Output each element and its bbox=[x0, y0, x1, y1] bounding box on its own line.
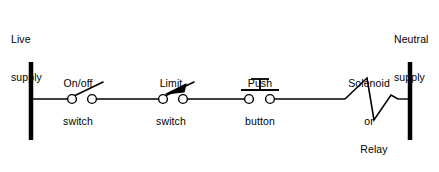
solenoid-label-line1: Solenoid bbox=[338, 77, 400, 90]
limit-switch-label: Limit switch bbox=[140, 52, 202, 152]
live-supply-label-line2: supply bbox=[11, 71, 42, 84]
push-button-label: Push button bbox=[229, 52, 291, 152]
push-button-label-line1: Push bbox=[229, 77, 291, 90]
relay-coil-label-line1: Relay bbox=[343, 143, 405, 156]
live-supply-label-line1: Live bbox=[11, 33, 42, 46]
relay-coil-label: Relay coil bbox=[343, 118, 405, 172]
circuit-diagram: Live supply Neutral supply On/off switch… bbox=[0, 0, 439, 172]
limit-switch-label-line2: switch bbox=[140, 115, 202, 128]
neutral-supply-label-line1: Neutral bbox=[394, 33, 429, 46]
on-off-switch-label: On/off switch bbox=[47, 52, 109, 152]
on-off-switch-label-line2: switch bbox=[47, 115, 109, 128]
limit-switch-label-line1: Limit bbox=[140, 77, 202, 90]
push-button-label-line2: button bbox=[229, 115, 291, 128]
live-supply-label: Live supply bbox=[11, 8, 42, 108]
on-off-switch-label-line1: On/off bbox=[47, 77, 109, 90]
